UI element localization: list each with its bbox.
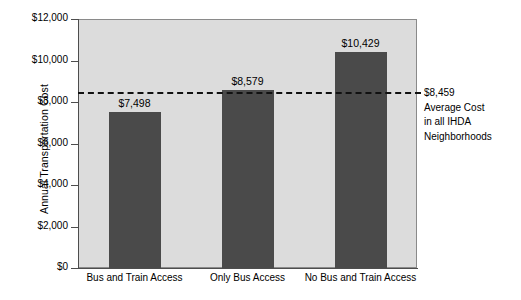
bar: [222, 90, 274, 268]
y-tick-mark: [71, 227, 78, 228]
average-cost-annotation: $8,459 Average Cost in all IHDA Neighbor…: [424, 86, 519, 144]
y-tick-label: $4,000: [37, 178, 68, 189]
y-tick-mark: [71, 102, 78, 103]
y-tick-label: $12,000: [32, 12, 68, 23]
y-tick-mark: [71, 185, 78, 186]
annotation-line-0: $8,459: [424, 86, 519, 101]
y-tick-mark: [71, 268, 78, 269]
y-tick-mark: [71, 19, 78, 20]
bar-value-label: $7,498: [85, 97, 185, 109]
bar-value-label: $8,579: [198, 75, 298, 87]
y-tick-label: $10,000: [32, 54, 68, 65]
y-tick-label: $8,000: [37, 95, 68, 106]
y-tick-label: $0: [57, 261, 68, 272]
x-axis-label: No Bus and Train Access: [286, 272, 436, 283]
y-tick-mark: [71, 144, 78, 145]
transportation-cost-bar-chart: Annual Transportation Cost $0$2,000$4,00…: [0, 0, 521, 300]
y-tick-label: $6,000: [37, 137, 68, 148]
y-axis-line: [78, 19, 79, 269]
bar: [109, 112, 161, 268]
x-axis-line: [78, 268, 418, 269]
annotation-line-1: Average Cost: [424, 101, 519, 116]
annotation-line-2: in all IHDA: [424, 115, 519, 130]
bar-value-label: $10,429: [311, 37, 411, 49]
bar: [335, 52, 387, 268]
y-tick-mark: [71, 61, 78, 62]
annotation-line-3: Neighborhoods: [424, 130, 519, 145]
average-cost-reference-line: [78, 92, 421, 94]
y-tick-label: $2,000: [37, 220, 68, 231]
